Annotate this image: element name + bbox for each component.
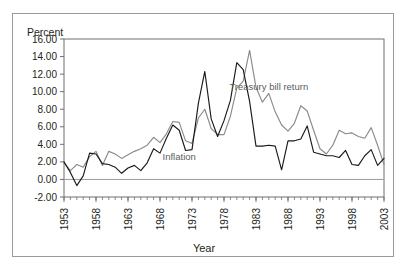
plot-area-border bbox=[64, 39, 384, 197]
x-axis-title-label: Year bbox=[193, 242, 216, 254]
y-axis-tick-group bbox=[60, 39, 64, 197]
x-axis-tick-label: 1988 bbox=[283, 208, 294, 231]
inflation-tbill-line-chart: Percent 16.0014.0012.0010.008.006.004.00… bbox=[13, 14, 395, 258]
x-axis-tick-label-group: 1953195819631968197319781983198819931998… bbox=[59, 208, 390, 231]
series-line-inflation bbox=[64, 63, 384, 186]
y-axis-tick-label: 6.00 bbox=[38, 121, 58, 132]
y-axis-tick-label: 10.00 bbox=[32, 86, 57, 97]
series-annotation-label: Treasury bill return bbox=[229, 81, 308, 92]
figure-frame: Percent 16.0014.0012.0010.008.006.004.00… bbox=[12, 13, 394, 257]
series-line-treasury-bill-return bbox=[64, 50, 384, 170]
x-axis-tick-label: 1953 bbox=[59, 208, 70, 231]
x-axis-tick-label: 1973 bbox=[187, 208, 198, 231]
y-axis-tick-label-group: 16.0014.0012.0010.008.006.004.002.000.00… bbox=[32, 34, 57, 203]
y-axis-tick-label: 8.00 bbox=[38, 104, 58, 115]
y-axis-tick-label: -2.00 bbox=[34, 192, 57, 203]
y-axis-tick-label: 12.00 bbox=[32, 69, 57, 80]
x-axis-tick-label: 1998 bbox=[347, 208, 358, 231]
x-axis-tick-group bbox=[64, 197, 384, 202]
y-axis-tick-label: 16.00 bbox=[32, 34, 57, 45]
x-axis-tick-label: 2003 bbox=[379, 208, 390, 231]
y-axis-tick-label: 4.00 bbox=[38, 139, 58, 150]
y-axis-tick-label: 14.00 bbox=[32, 51, 57, 62]
series-annotation-label: Inflation bbox=[163, 151, 196, 162]
x-axis-tick-label: 1983 bbox=[251, 208, 262, 231]
x-axis-tick-label: 1968 bbox=[155, 208, 166, 231]
x-axis-tick-label: 1958 bbox=[91, 208, 102, 231]
y-axis-tick-label: 0.00 bbox=[38, 174, 58, 185]
y-axis-tick-label: 2.00 bbox=[38, 156, 58, 167]
x-axis-tick-label: 1978 bbox=[219, 208, 230, 231]
x-axis-tick-label: 1963 bbox=[123, 208, 134, 231]
x-axis-tick-label: 1993 bbox=[315, 208, 326, 231]
